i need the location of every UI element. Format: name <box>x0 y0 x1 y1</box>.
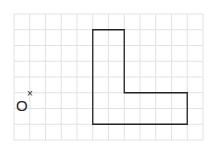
grid-diagram <box>0 0 215 150</box>
center-marker: × <box>27 88 33 99</box>
center-label: O <box>16 97 28 114</box>
